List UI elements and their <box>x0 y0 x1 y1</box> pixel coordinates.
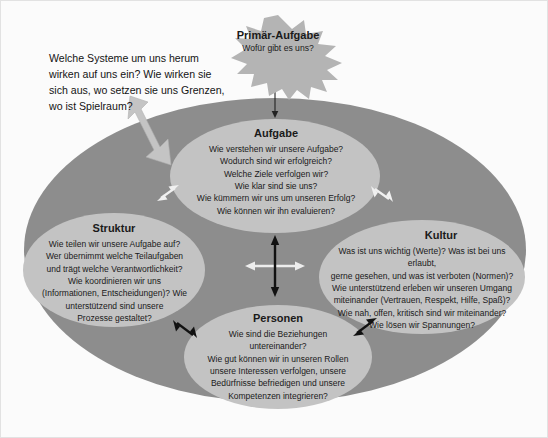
kultur-title: Kultur <box>376 229 506 242</box>
aufgabe-body: Wie verstehen wir unsere Aufgabe? Wodurc… <box>173 143 379 217</box>
kultur-body: Was ist uns wichtig (Werte)? Was ist bei… <box>326 245 518 331</box>
aufgabe-title: Aufgabe <box>196 127 356 140</box>
diagram-canvas: Welche Systeme um uns herum wirken auf u… <box>0 0 548 438</box>
struktur-body: Wie teilen wir unsere Aufgabe auf? Wer ü… <box>33 238 196 324</box>
struktur-title: Struktur <box>49 222 179 235</box>
primary-task-subtitle: Wofür gibt es uns? <box>213 43 343 53</box>
primary-task-starburst <box>231 15 342 100</box>
personen-title: Personen <box>208 312 348 325</box>
environment-intro-text: Welche Systeme um uns herum wirken auf u… <box>49 51 229 115</box>
primary-task-title: Primär-Aufgabe <box>213 29 343 42</box>
personen-body: Wie sind die Beziehungen untereinander? … <box>189 328 367 402</box>
